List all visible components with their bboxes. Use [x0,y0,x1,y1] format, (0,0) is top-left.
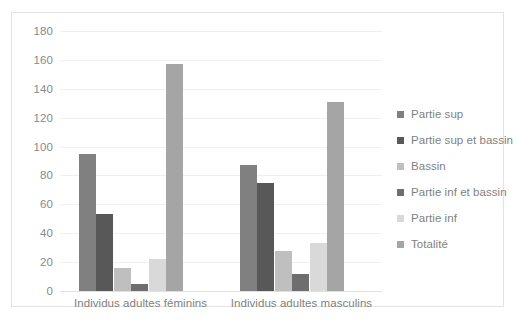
legend-label: Partie sup [411,108,463,120]
bar [166,64,183,291]
bar [275,251,292,291]
legend-swatch-icon [397,189,404,196]
bar [310,243,327,291]
x-axis-category-label: Individus adultes masculins [221,297,382,309]
bar [292,274,309,291]
legend-item[interactable]: Totalité [397,231,517,257]
y-axis-tick-label: 160 [34,54,54,66]
legend-item[interactable]: Partie inf et bassin [397,179,517,205]
legend-swatch-icon [397,111,404,118]
legend-item[interactable]: Bassin [397,153,517,179]
bar [96,214,113,291]
y-axis-tick-label: 120 [34,112,54,124]
legend-swatch-icon [397,137,404,144]
chart-legend: Partie supPartie sup et bassinBassinPart… [397,101,517,257]
x-axis-category-label: Individus adultes féminins [60,297,221,309]
y-axis-tick-label: 0 [47,285,54,297]
y-axis-tick-label: 100 [34,141,54,153]
bar [327,102,344,291]
legend-item[interactable]: Partie sup et bassin [397,127,517,153]
legend-label: Partie sup et bassin [411,134,513,146]
gridline [60,291,382,292]
bar [240,165,257,291]
legend-swatch-icon [397,241,404,248]
y-axis-tick-label: 180 [34,25,54,37]
legend-swatch-icon [397,215,404,222]
y-axis-tick-label: 140 [34,83,54,95]
y-axis-tick-label: 20 [40,256,53,268]
y-axis-tick-label: 60 [40,198,53,210]
bar [149,259,166,291]
legend-label: Bassin [411,160,446,172]
chart-frame: 180160140120100806040200 Individus adult… [11,12,504,307]
legend-item[interactable]: Partie inf [397,205,517,231]
bar [131,284,148,291]
y-axis-tick-label: 80 [40,169,53,181]
legend-label: Partie inf et bassin [411,186,507,198]
x-axis-category-labels: Individus adultes fémininsIndividus adul… [60,297,382,317]
bar [79,154,96,291]
legend-label: Totalité [411,238,448,250]
plot-area: 180160140120100806040200 [60,31,382,291]
legend-label: Partie inf [411,212,457,224]
bar-chart: 180160140120100806040200 Individus adult… [0,0,517,334]
legend-item[interactable]: Partie sup [397,101,517,127]
y-axis-tick-label: 40 [40,227,53,239]
legend-swatch-icon [397,163,404,170]
bars-layer [60,31,382,291]
bar [114,268,131,291]
bar [257,183,274,291]
